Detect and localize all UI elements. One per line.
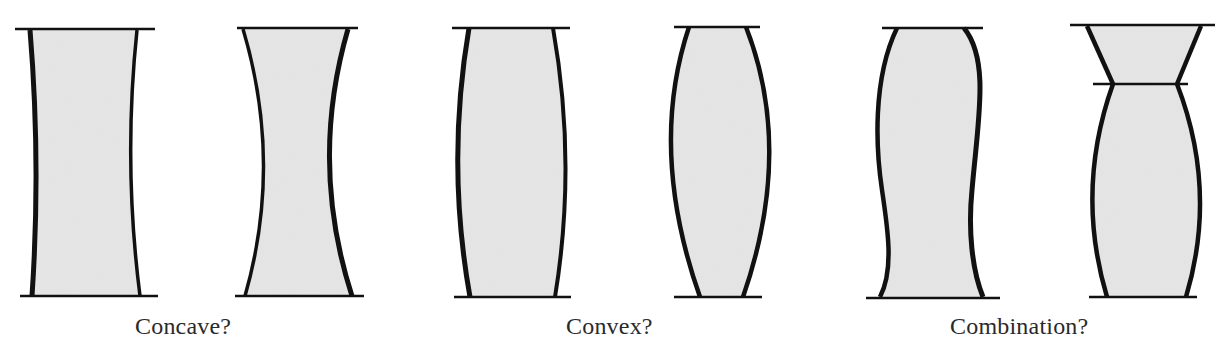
- shape-concave-1: [15, 29, 158, 296]
- shape-fill-body: [1092, 84, 1200, 297]
- caption-concave: Concave?: [135, 313, 231, 340]
- caption-combination: Combination?: [950, 313, 1088, 340]
- shape-combination-1: [866, 28, 1000, 298]
- shape-convex-1: [452, 28, 571, 297]
- shape-fill: [877, 28, 983, 297]
- shape-concave-2: [235, 28, 364, 296]
- left-edge: [30, 30, 36, 296]
- shape-fill-top: [1087, 26, 1201, 84]
- shape-convex-2: [671, 27, 769, 297]
- caption-convex: Convex?: [566, 313, 653, 340]
- shape-fill: [458, 28, 565, 297]
- shape-combination-2: [1070, 25, 1215, 297]
- profile-diagram: [0, 0, 1219, 348]
- shape-fill: [31, 30, 140, 296]
